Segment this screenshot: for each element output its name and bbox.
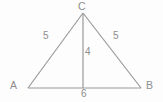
geometry-diagram: C A B 5 5 4 6 bbox=[0, 0, 163, 102]
altitude-length-label: 4 bbox=[85, 47, 91, 57]
base-length-label: 6 bbox=[81, 89, 87, 99]
triangle-svg bbox=[0, 0, 163, 102]
vertex-label-b: B bbox=[146, 80, 153, 90]
side-length-label-bc: 5 bbox=[113, 31, 119, 41]
side-length-label-ac: 5 bbox=[43, 31, 49, 41]
vertex-label-c: C bbox=[78, 1, 86, 11]
vertex-label-a: A bbox=[10, 80, 17, 90]
segment-ac bbox=[28, 13, 83, 88]
segment-bc bbox=[83, 13, 141, 88]
